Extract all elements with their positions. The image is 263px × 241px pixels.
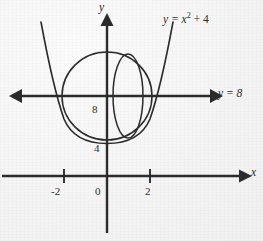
x-tick-label-zero: 0 — [95, 186, 101, 197]
curve-equation-label: y = x2 + 4 — [163, 14, 209, 26]
graph-figure: y = x2 + 4 y = 8 x y 8 4 -2 0 2 — [0, 0, 263, 241]
y-axis — [101, 13, 114, 233]
arrow-left-icon — [9, 89, 22, 103]
curve-equation-suffix: + 4 — [191, 13, 209, 25]
curve-equation-prefix: y = x — [163, 13, 187, 25]
arrow-up-icon — [101, 13, 114, 26]
y-tick-label-4: 4 — [94, 143, 100, 154]
line-y-equals-8 — [9, 89, 223, 103]
x-tick-label-neg2: -2 — [51, 186, 60, 197]
line-equation-label: y = 8 — [218, 88, 242, 100]
x-axis-label: x — [251, 167, 256, 179]
x-axis — [2, 169, 252, 183]
y-axis-label: y — [99, 2, 104, 14]
y-tick-label-8: 8 — [92, 104, 98, 115]
graph-canvas — [0, 0, 263, 241]
x-tick-label-pos2: 2 — [145, 186, 151, 197]
